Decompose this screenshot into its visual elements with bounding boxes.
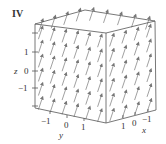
z-tick-neg1: −1 — [18, 83, 28, 93]
vector-arrow — [122, 61, 126, 73]
vector-arrow — [50, 86, 54, 98]
vector-arrow — [134, 43, 138, 55]
vector-arrow — [38, 27, 42, 39]
vector-arrow — [62, 88, 66, 100]
x-tick-neg1: −1 — [142, 114, 152, 124]
vector-arrow — [98, 80, 102, 92]
panel-label: IV — [12, 8, 24, 19]
y-tick-1: 1 — [81, 122, 86, 132]
vector-arrow — [122, 31, 126, 43]
vector-arrow — [146, 25, 150, 37]
vector-arrow — [50, 100, 54, 112]
vector-arrow — [62, 102, 66, 114]
vector-arrow — [74, 61, 78, 73]
vector-arrow — [74, 90, 78, 102]
vector-arrow — [50, 72, 54, 84]
vector-arrow — [98, 65, 102, 77]
x-tick-0: 0 — [132, 118, 137, 128]
vector-arrow — [50, 29, 54, 41]
vector-arrow — [38, 69, 42, 81]
vector-arrow — [110, 49, 114, 61]
vector-arrow — [50, 43, 54, 55]
vector-arrow — [86, 63, 90, 75]
vector-arrow — [110, 64, 114, 76]
z-tick-0: 0 — [24, 66, 29, 76]
vector-arrow — [38, 98, 42, 110]
vector-arrow — [74, 105, 78, 117]
x-tick-1: 1 — [121, 121, 126, 131]
vector-arrow — [74, 76, 78, 88]
vector-arrow — [147, 70, 151, 82]
vector-arrow — [122, 91, 126, 103]
vector-arrow — [147, 55, 151, 67]
vector-arrow — [62, 74, 66, 86]
vector-arrow — [62, 30, 66, 42]
vector-arrow — [110, 34, 114, 46]
vector-arrow — [98, 95, 102, 107]
vector-arrow — [135, 88, 139, 100]
vector-arrow — [98, 110, 102, 122]
y-tick-0: 0 — [64, 120, 69, 130]
z-tick-1: 1 — [24, 47, 29, 57]
vector-arrow — [110, 79, 114, 91]
vector-arrow — [62, 45, 66, 57]
vector-arrow — [134, 28, 138, 40]
vector-arrow — [86, 48, 90, 60]
vector-arrow — [74, 47, 78, 59]
vector-arrow — [98, 35, 102, 47]
vector-arrow — [122, 46, 126, 58]
vector-field-plot: IV 1 0 −1 z −1 0 1 y 1 0 −1 x — [0, 0, 166, 144]
vector-arrow — [38, 41, 42, 53]
vector-arrows — [38, 9, 151, 122]
vector-arrow — [86, 93, 90, 105]
vector-arrow — [86, 107, 90, 119]
x-axis-label: x — [141, 125, 146, 135]
y-tick-neg1: −1 — [41, 116, 51, 126]
y-axis-label: y — [58, 130, 63, 140]
vector-arrow — [122, 76, 126, 88]
vector-arrow — [134, 58, 138, 70]
vector-arrow — [98, 50, 102, 62]
vector-arrow — [147, 40, 151, 52]
vector-arrow — [110, 94, 114, 106]
vector-arrow — [110, 109, 114, 121]
vector-arrow — [50, 57, 54, 69]
vector-arrow — [62, 59, 66, 71]
vector-arrow — [135, 73, 139, 85]
vector-arrow — [147, 85, 151, 97]
vector-arrow — [38, 84, 42, 96]
vector-arrow — [86, 78, 90, 90]
vector-arrow — [74, 32, 78, 44]
vector-arrow — [86, 34, 90, 46]
vector-arrow — [38, 55, 42, 67]
z-axis-label: z — [13, 66, 18, 76]
